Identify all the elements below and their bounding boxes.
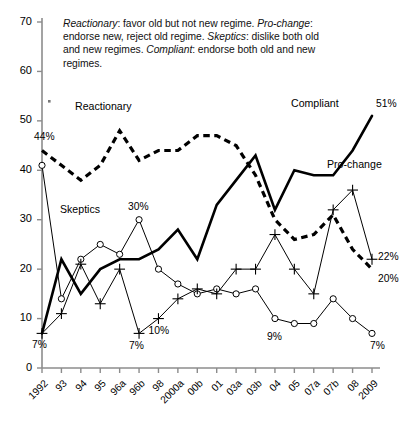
y-tick-label: 40 <box>8 163 32 175</box>
marker-circle-skeptics <box>39 162 45 168</box>
marker-circle-skeptics <box>117 251 123 257</box>
data-label: 7% <box>129 340 144 351</box>
marker-circle-skeptics <box>252 286 258 292</box>
chart-figure: Reactionary: favor old but not new regim… <box>0 0 416 421</box>
marker-circle-skeptics <box>311 320 317 326</box>
y-tick-label: 0 <box>8 361 32 373</box>
data-label: 51% <box>376 98 397 109</box>
data-label: 7% <box>370 340 385 351</box>
reactionary-legend-dot <box>48 100 51 103</box>
marker-circle-skeptics <box>155 266 161 272</box>
y-tick-label: 30 <box>8 212 32 224</box>
marker-circle-skeptics <box>175 281 181 287</box>
series-annotation-compliant: Compliant <box>291 97 339 109</box>
data-label: 22% <box>378 251 399 262</box>
y-tick-label: 50 <box>8 113 32 125</box>
y-tick-label: 10 <box>8 311 32 323</box>
series-line-reactionary <box>42 131 372 269</box>
marker-circle-skeptics <box>369 330 375 336</box>
marker-circle-skeptics <box>97 241 103 247</box>
marker-circle-skeptics <box>349 315 355 321</box>
series-annotation-reactionary: Reactionary <box>75 100 132 112</box>
y-tick-label: 60 <box>8 64 32 76</box>
data-label: 20% <box>378 273 399 284</box>
marker-circle-skeptics <box>233 291 239 297</box>
data-label: 7% <box>32 339 47 350</box>
marker-circle-skeptics <box>291 320 297 326</box>
marker-circle-skeptics <box>272 315 278 321</box>
series-annotation-prochange: Pro-change <box>327 158 382 170</box>
marker-circle-skeptics <box>58 296 64 302</box>
data-label: 44% <box>34 131 55 142</box>
series-annotation-skeptics: Skeptics <box>60 203 100 215</box>
data-label: 10% <box>148 325 169 336</box>
data-label: 9% <box>267 331 282 342</box>
marker-circle-skeptics <box>330 296 336 302</box>
data-label: 30% <box>128 201 149 212</box>
series-line-skeptics <box>42 165 372 333</box>
marker-circle-skeptics <box>136 217 142 223</box>
y-tick-label: 70 <box>8 15 32 27</box>
y-tick-label: 20 <box>8 262 32 274</box>
